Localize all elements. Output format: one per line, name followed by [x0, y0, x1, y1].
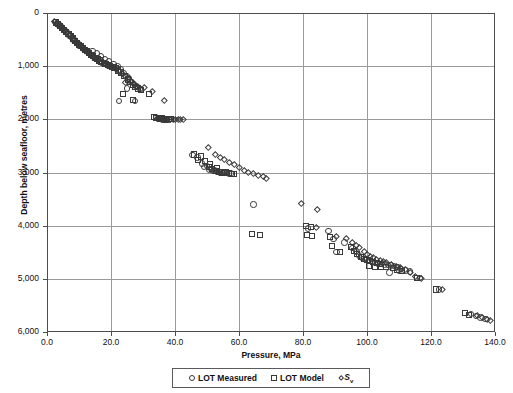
y-axis-tick [43, 66, 47, 67]
legend-label: Sv [344, 372, 353, 384]
chart-legend: LOT MeasuredLOT ModelSv [172, 368, 370, 388]
data-point-square [130, 97, 136, 103]
x-axis-tick [303, 332, 304, 336]
x-axis-tick [175, 332, 176, 336]
legend-item: LOT Model [271, 373, 324, 383]
x-axis-tick [495, 332, 496, 336]
x-axis-tick-label: 80.0 [279, 337, 327, 347]
x-axis-tick [111, 332, 112, 336]
gridline-horizontal [48, 173, 494, 174]
y-axis-tick-label: 0 [0, 7, 39, 17]
gridline-horizontal [48, 226, 494, 227]
scatter-chart: 0.020.040.060.080.0100.0120.0140.001,000… [0, 0, 513, 393]
data-point-square [309, 233, 315, 239]
gridline-horizontal [48, 279, 494, 280]
x-axis-tick [47, 332, 48, 336]
legend-item: LOT Measured [189, 373, 257, 383]
x-axis-tick-label: 120.0 [407, 337, 455, 347]
data-point-circle [250, 201, 256, 207]
x-axis-tick-label: 20.0 [87, 337, 135, 347]
legend-marker-diamond-icon [338, 375, 344, 381]
y-axis-tick-label: 6,000 [0, 326, 39, 336]
gridline-horizontal [48, 119, 494, 120]
x-axis-tick-label: 100.0 [343, 337, 391, 347]
legend-marker-circle-icon [189, 375, 195, 381]
y-axis-tick [43, 226, 47, 227]
data-point-square [257, 232, 263, 238]
data-point-square [120, 91, 126, 97]
data-point-circle [325, 228, 331, 234]
data-point-square [249, 231, 255, 237]
y-axis-tick-label: 5,000 [0, 273, 39, 283]
data-point-square [195, 157, 201, 163]
x-axis-tick [239, 332, 240, 336]
x-axis-tick-label: 40.0 [151, 337, 199, 347]
legend-label: LOT Measured [198, 373, 257, 383]
data-point-square [433, 286, 439, 292]
legend-marker-square-icon [271, 375, 277, 381]
y-axis-tick [43, 173, 47, 174]
data-point-square [329, 243, 335, 249]
x-axis-title: Pressure, MPa [47, 350, 495, 360]
data-point-circle [116, 98, 122, 104]
y-axis-title: Depth below seafloor, metres [19, 65, 29, 245]
data-point-square [466, 312, 472, 318]
y-axis-tick [43, 332, 47, 333]
x-axis-tick-label: 0.0 [23, 337, 71, 347]
legend-item: Sv [338, 372, 353, 384]
data-point-square [231, 171, 237, 177]
x-axis-tick-label: 60.0 [215, 337, 263, 347]
y-axis-tick [43, 279, 47, 280]
data-point-square [214, 165, 220, 171]
y-axis-tick [43, 119, 47, 120]
x-axis-tick [367, 332, 368, 336]
y-axis-tick [43, 13, 47, 14]
x-axis-tick [431, 332, 432, 336]
data-point-square [222, 169, 228, 175]
x-axis-tick-label: 140.0 [471, 337, 513, 347]
data-point-square [366, 263, 372, 269]
data-point-square [207, 161, 213, 167]
data-point-square [337, 249, 343, 255]
data-point-square [372, 264, 378, 270]
legend-label: LOT Model [280, 373, 324, 383]
